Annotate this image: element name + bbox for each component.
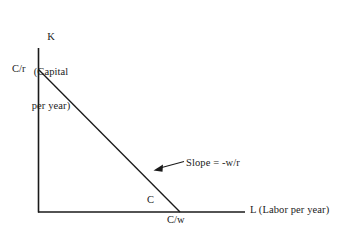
x-axis-intercept-label: C/w xyxy=(167,214,185,226)
slope-annotation-arrow xyxy=(154,162,185,172)
y-axis-title-line-1: K xyxy=(8,31,94,43)
y-axis-title-line-3: per year) xyxy=(8,100,94,112)
slope-annotation-label: Slope = -w/r xyxy=(186,157,240,169)
isocost-diagram-figure: K (Capital per year) C/r C/w L (Labor pe… xyxy=(0,0,355,241)
slope-arrow-head xyxy=(154,165,164,172)
slope-arrow-shaft xyxy=(160,162,184,169)
y-axis-intercept-label: C/r xyxy=(12,63,26,75)
x-axis-title: L (Labor per year) xyxy=(250,204,329,216)
isocost-line-label: C xyxy=(147,194,154,206)
